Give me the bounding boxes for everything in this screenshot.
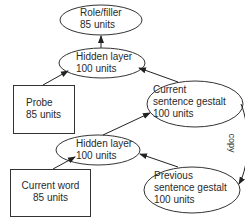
- current-word-node: Current word 85 units: [10, 180, 91, 204]
- hidden-layer-bottom-title: Hidden layer: [76, 138, 132, 150]
- previous-gestalt-line1: Previous: [154, 170, 227, 182]
- arrow-current-gestalt-to-hidden-top: [139, 68, 178, 82]
- hidden-layer-top-node: Hidden layer 100 units: [76, 51, 132, 75]
- hidden-layer-bottom-units: 100 units: [76, 150, 132, 162]
- role-filler-units: 85 units: [80, 19, 122, 31]
- previous-gestalt-line2: sentence gestalt: [154, 182, 227, 194]
- current-gestalt-line2: sentence gestalt: [153, 96, 226, 108]
- role-filler-title: Role/filler: [80, 7, 122, 19]
- arrow-probe-to-hidden-top: [43, 71, 68, 85]
- previous-sentence-gestalt-node: Previous sentence gestalt 100 units: [154, 170, 227, 206]
- arrow-previous-gestalt-to-hidden-bottom: [140, 154, 178, 167]
- current-word-title: Current word: [10, 180, 91, 192]
- hidden-layer-top-title: Hidden layer: [76, 51, 132, 63]
- current-sentence-gestalt-node: Current sentence gestalt 100 units: [153, 84, 226, 120]
- probe-node: Probe 85 units: [26, 97, 61, 121]
- hidden-layer-top-units: 100 units: [76, 63, 132, 75]
- current-gestalt-units: 100 units: [153, 108, 226, 120]
- current-word-units: 85 units: [10, 192, 91, 204]
- previous-gestalt-units: 100 units: [154, 194, 227, 206]
- arrow-hidden-bottom-to-current-gestalt: [103, 113, 150, 135]
- current-gestalt-line1: Current: [153, 84, 226, 96]
- copy-label: copy: [227, 133, 237, 152]
- role-filler-node: Role/filler 85 units: [80, 7, 122, 31]
- hidden-layer-bottom-node: Hidden layer 100 units: [76, 138, 132, 162]
- copy-arrow: [239, 104, 245, 184]
- probe-units: 85 units: [26, 109, 61, 121]
- probe-title: Probe: [26, 97, 61, 109]
